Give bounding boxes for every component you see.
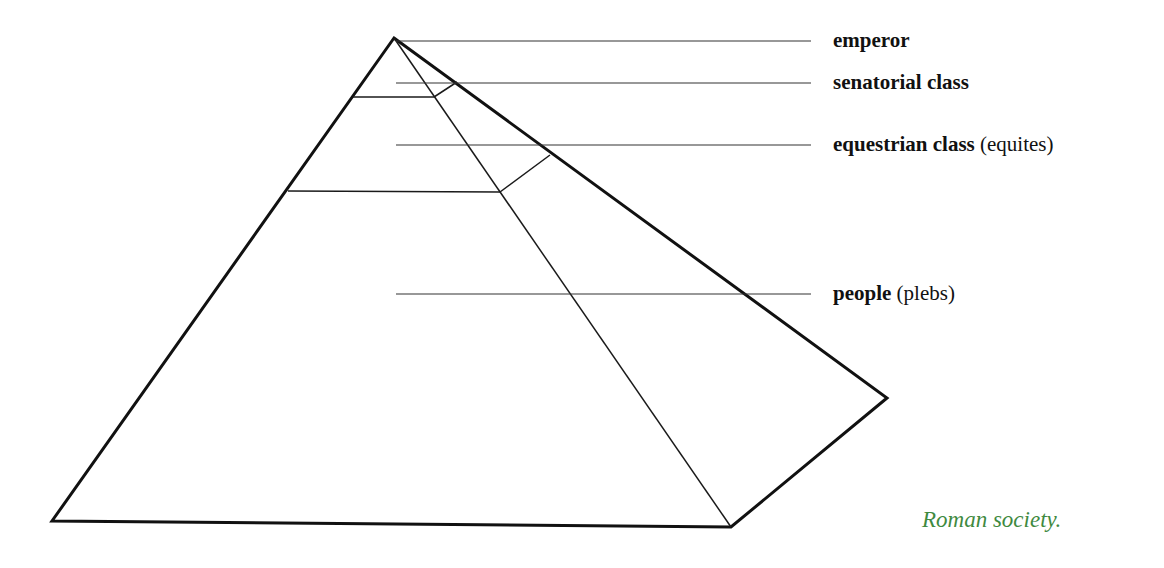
label-people: people (plebs) xyxy=(833,283,955,304)
label-equestrian-class: equestrian class (equites) xyxy=(833,134,1053,155)
label-equestrian-text: equestrian class xyxy=(833,132,975,156)
label-emperor: emperor xyxy=(833,30,910,51)
pyramid-diagram xyxy=(0,0,1164,568)
pyramid-front-edge xyxy=(394,38,731,527)
figure-caption: Roman society. xyxy=(922,508,1061,531)
label-equestrian-note: (equites) xyxy=(980,132,1053,156)
label-people-note: (plebs) xyxy=(897,281,955,305)
label-people-text: people xyxy=(833,281,891,305)
label-senatorial-text: senatorial class xyxy=(833,70,969,94)
tier-boundary-equestrian-left xyxy=(288,191,500,192)
label-emperor-text: emperor xyxy=(833,28,910,52)
label-senatorial-class: senatorial class xyxy=(833,72,969,93)
tier-boundary-equestrian-right xyxy=(500,155,550,192)
tier-boundary-senatorial-right xyxy=(434,82,457,97)
pyramid-outline xyxy=(52,38,887,527)
